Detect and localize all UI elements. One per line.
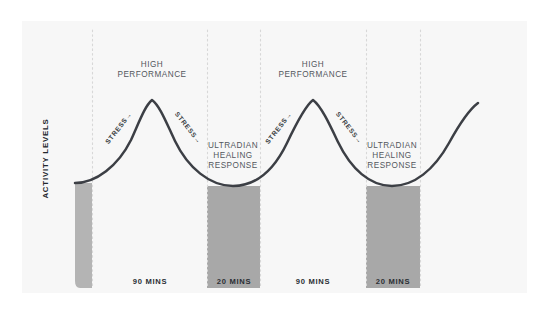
shaded-duration-bars [75,183,420,288]
chart-canvas [0,0,548,309]
y-axis-title: ACTIVITY LEVELS [38,110,52,206]
activity-curve [75,100,478,186]
y-axis-title-text: ACTIVITY LEVELS [41,118,50,198]
shade-bar-90mins-1 [75,183,92,288]
shade-bar-20mins-2 [366,186,420,288]
shade-bar-20mins-1 [207,186,260,288]
chart-figure: ACTIVITY LEVELS HIGH PERFORMANCE HIGH PE… [0,0,548,309]
